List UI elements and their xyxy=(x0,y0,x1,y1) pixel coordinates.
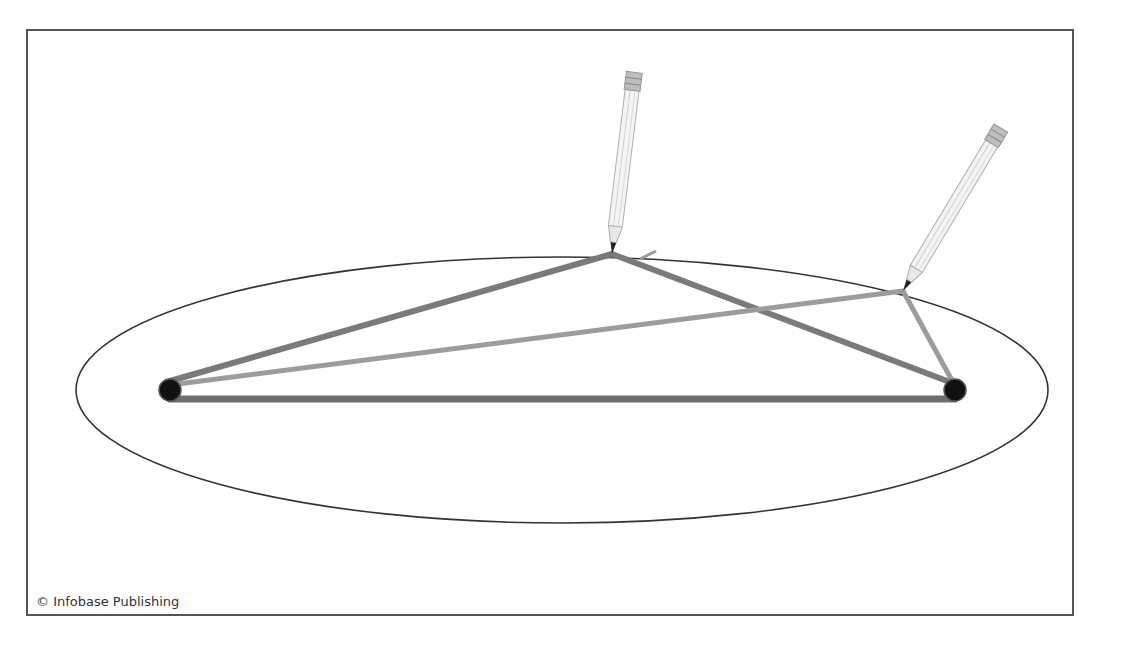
pencil-top-icon xyxy=(604,71,642,255)
pin-right-focus xyxy=(944,379,966,401)
string-kink xyxy=(640,251,656,259)
ellipse-curve xyxy=(76,257,1048,523)
pencil-right-icon xyxy=(896,124,1008,295)
pin-left-focus xyxy=(159,379,181,401)
copyright-credit: © Infobase Publishing xyxy=(36,594,179,609)
ellipse-diagram xyxy=(0,0,1122,652)
string-loop-top xyxy=(170,254,955,384)
